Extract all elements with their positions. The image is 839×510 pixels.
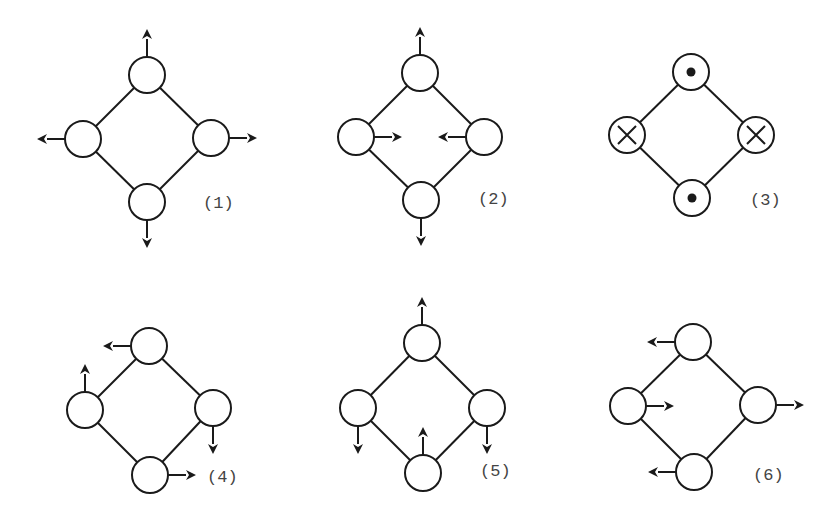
arrowhead-icon — [103, 341, 113, 351]
dot-out-of-page-icon — [688, 194, 697, 203]
diagram-1: (1) — [37, 29, 257, 248]
arrowhead-icon — [664, 401, 674, 411]
node-bottom — [405, 455, 441, 491]
node-left — [67, 392, 103, 428]
arrowhead-icon — [37, 134, 47, 144]
arrowhead-icon — [80, 364, 90, 374]
arrowhead-icon — [648, 467, 658, 477]
arrowhead-icon — [438, 132, 448, 142]
node-top — [675, 324, 711, 360]
diagram-label: (4) — [207, 468, 238, 487]
node-bottom — [403, 182, 439, 218]
arrowhead-icon — [142, 29, 152, 39]
node-bottom — [676, 454, 712, 490]
diagram-2: (2) — [338, 27, 509, 246]
arrowhead-icon — [417, 297, 427, 307]
node-left — [65, 121, 101, 157]
arrowhead-icon — [418, 427, 428, 437]
arrowhead-icon — [142, 238, 152, 248]
diagram-6: (6) — [610, 324, 804, 490]
arrowhead-icon — [353, 444, 363, 454]
arrowhead-icon — [247, 133, 257, 143]
node-right — [740, 387, 776, 423]
arrowhead-icon — [416, 236, 426, 246]
diagram-label: (1) — [203, 194, 234, 213]
node-left — [610, 388, 646, 424]
node-left — [340, 390, 376, 426]
node-top — [129, 57, 165, 93]
diagram-label: (3) — [750, 191, 781, 210]
node-bottom — [129, 184, 165, 220]
arrowhead-icon — [794, 400, 804, 410]
diagram-4: (4) — [67, 328, 238, 493]
node-right — [469, 390, 505, 426]
node-left — [338, 119, 374, 155]
diagram-3: (3) — [609, 54, 781, 216]
arrowhead-icon — [208, 444, 218, 454]
arrowhead-icon — [415, 27, 425, 37]
arrowhead-icon — [392, 132, 402, 142]
arrowhead-icon — [482, 444, 492, 454]
diagram-label: (6) — [753, 466, 784, 485]
arrowhead-icon — [186, 470, 196, 480]
node-right — [193, 120, 229, 156]
diagram-canvas: (1) (2) (3) (4) (5) (6) — [0, 0, 839, 510]
diagram-label: (5) — [480, 462, 511, 481]
diagram-label: (2) — [478, 190, 509, 209]
node-top — [404, 325, 440, 361]
arrowhead-icon — [647, 337, 657, 347]
dot-out-of-page-icon — [687, 68, 696, 77]
node-top — [402, 55, 438, 91]
node-top — [131, 328, 167, 364]
diagram-5: (5) — [340, 297, 511, 491]
node-right — [466, 119, 502, 155]
node-bottom — [132, 457, 168, 493]
node-right — [195, 390, 231, 426]
